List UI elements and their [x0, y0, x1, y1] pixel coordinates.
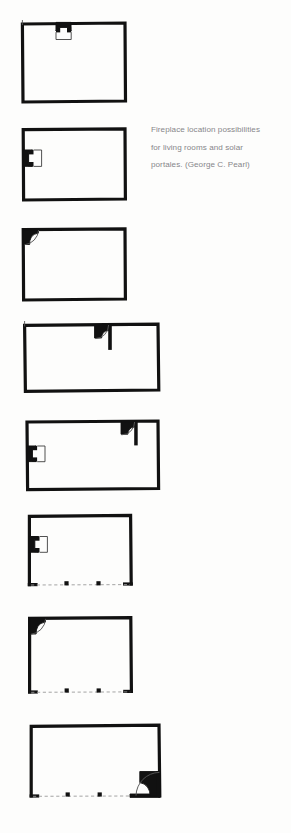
plan-5-walls	[27, 421, 159, 490]
floor-plan-7	[24, 612, 152, 706]
floor-plan-4	[22, 318, 170, 400]
plan-2-drawing	[20, 124, 135, 206]
plan-3-drawing	[20, 224, 135, 306]
plan-5-fireplace-interior-partition	[121, 421, 138, 445]
plan-6-walls	[29, 515, 131, 584]
plan-1-fireplace-top-center	[56, 22, 71, 39]
plan-2-fireplace-left-wall	[23, 150, 41, 166]
plan-5-drawing	[24, 414, 172, 498]
plan-8-fireplace-corner-bottom-right	[130, 771, 160, 797]
plan-6-fireplace-left-wall	[29, 537, 47, 553]
plan-7-walls	[30, 618, 132, 692]
plan-2-walls	[23, 129, 125, 200]
floor-plan-5	[24, 414, 172, 498]
plan-8-walls	[31, 725, 160, 796]
plan-1-walls	[22, 23, 125, 102]
plan-7-drawing	[24, 612, 152, 706]
plan-1-drawing	[20, 18, 135, 110]
plan-3-fireplace-corner-top-left	[23, 230, 38, 245]
figure-root: Fireplace location possibilities for liv…	[0, 0, 291, 833]
plan-8-drawing	[26, 718, 178, 812]
caption-line-2: for living rooms and solar	[151, 139, 287, 157]
floor-plan-3	[20, 224, 135, 306]
floor-plan-8	[26, 718, 178, 812]
plan-7-fireplace-corner-top-left	[30, 618, 46, 634]
plan-8-portal-posts	[66, 792, 102, 796]
floor-plan-6	[24, 510, 152, 600]
floor-plan-2	[20, 124, 135, 206]
floor-plan-1	[20, 18, 135, 110]
caption-line-3: portales. (George C. Pearl)	[151, 156, 287, 174]
plan-4-drawing	[22, 318, 170, 400]
plan-5-fireplace-left-wall	[27, 446, 45, 462]
plan-4-fireplace-interior-partition	[95, 324, 112, 350]
caption-line-1: Fireplace location possibilities	[151, 121, 287, 139]
plan-4-walls	[25, 324, 159, 391]
plan-3-walls	[23, 229, 125, 300]
figure-caption: Fireplace location possibilities for liv…	[151, 121, 287, 174]
plan-6-drawing	[24, 510, 152, 600]
